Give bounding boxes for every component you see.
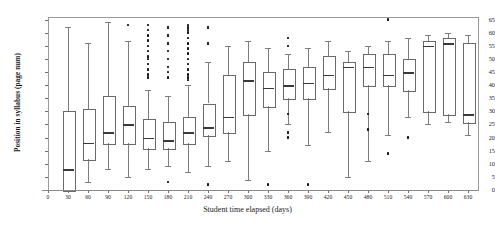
whisker-lower	[188, 143, 189, 172]
y-tick-mark	[45, 85, 48, 86]
outlier-point	[187, 73, 190, 76]
x-tick-label: 570	[417, 194, 439, 200]
whisker-upper	[328, 41, 329, 57]
median-line	[103, 132, 114, 134]
whisker-cap-lower	[85, 182, 91, 183]
outlier-point	[147, 68, 150, 71]
whisker-upper	[388, 41, 389, 54]
box-iqr	[163, 122, 176, 150]
x-tick-label: 30	[57, 194, 79, 200]
outlier-point	[187, 26, 190, 29]
box-iqr	[183, 117, 196, 145]
whisker-cap-upper	[325, 41, 331, 42]
box-iqr	[143, 119, 156, 150]
outlier-point	[207, 183, 210, 186]
x-tick-label: 90	[97, 194, 119, 200]
whisker-cap-lower	[345, 177, 351, 178]
whisker-cap-lower	[165, 166, 171, 167]
whisker-upper	[128, 41, 129, 107]
box-iqr	[243, 62, 256, 116]
x-tick-label: 150	[137, 194, 159, 200]
whisker-cap-upper	[185, 85, 191, 86]
whisker-upper	[268, 48, 269, 72]
whisker-cap-upper	[105, 22, 111, 23]
outlier-point	[267, 183, 270, 186]
x-tick-label: 240	[197, 194, 219, 200]
outlier-point	[187, 31, 190, 34]
whisker-cap-upper	[385, 41, 391, 42]
box-iqr	[403, 59, 416, 92]
median-line	[323, 75, 334, 77]
x-tick-label: 210	[177, 194, 199, 200]
outlier-point	[287, 136, 290, 139]
outlier-point	[307, 183, 310, 186]
outlier-point	[287, 131, 290, 134]
whisker-cap-upper	[265, 48, 271, 49]
whisker-cap-lower	[425, 124, 431, 125]
whisker-cap-upper	[225, 46, 231, 47]
whisker-cap-lower	[205, 166, 211, 167]
x-axis-title: Student time elapsed (days)	[0, 205, 495, 214]
outlier-point	[187, 52, 190, 55]
y-tick-mark	[45, 98, 48, 99]
y-tick-label: 10	[453, 160, 495, 167]
x-tick-label: 60	[77, 194, 99, 200]
whisker-cap-lower	[385, 135, 391, 136]
whisker-cap-upper	[85, 43, 91, 44]
x-tick-label: 480	[357, 194, 379, 200]
median-line	[223, 117, 234, 119]
whisker-lower	[148, 148, 149, 169]
whisker-cap-upper	[345, 51, 351, 52]
median-line	[83, 143, 94, 145]
box-iqr	[103, 96, 116, 145]
whisker-upper	[68, 27, 69, 111]
median-line	[203, 127, 214, 129]
whisker-cap-upper	[165, 96, 171, 97]
whisker-cap-lower	[145, 169, 151, 170]
whisker-upper	[168, 96, 169, 122]
whisker-cap-upper	[405, 38, 411, 39]
whisker-cap-lower	[365, 161, 371, 162]
y-tick-mark	[45, 20, 48, 21]
whisker-upper	[288, 54, 289, 70]
whisker-lower	[88, 159, 89, 183]
median-line	[63, 169, 74, 171]
box-iqr	[83, 109, 96, 161]
box-iqr	[443, 38, 456, 116]
x-tick-label: 360	[277, 194, 299, 200]
boxplot-chart: Position in syllabus (page num) Student …	[0, 0, 495, 231]
median-line	[183, 132, 194, 134]
x-tick-label: 600	[437, 194, 459, 200]
whisker-lower	[328, 88, 329, 133]
median-line	[363, 67, 374, 69]
box-iqr	[383, 54, 396, 87]
whisker-lower	[128, 143, 129, 177]
y-tick-mark	[45, 46, 48, 47]
x-axis-line	[42, 190, 478, 191]
whisker-cap-lower	[285, 124, 291, 125]
median-line	[143, 138, 154, 140]
outlier-point	[407, 136, 410, 139]
x-tick-label: 180	[157, 194, 179, 200]
y-tick-label: 65	[453, 16, 495, 23]
outlier-point	[147, 39, 150, 42]
whisker-lower	[288, 98, 289, 124]
whisker-cap-lower	[465, 135, 471, 136]
whisker-lower	[408, 90, 409, 116]
outlier-point	[167, 26, 170, 29]
y-axis-title: Position in syllabus (page num)	[14, 53, 22, 152]
outlier-point	[207, 26, 210, 29]
median-line	[443, 43, 454, 45]
whisker-cap-lower	[265, 151, 271, 152]
box-iqr	[363, 54, 376, 87]
median-line	[123, 124, 134, 126]
median-line	[303, 83, 314, 85]
outlier-point	[187, 68, 190, 71]
median-line	[163, 140, 174, 142]
x-tick-label: 390	[297, 194, 319, 200]
x-tick-label: 540	[397, 194, 419, 200]
x-tick-label: 300	[237, 194, 259, 200]
median-line	[283, 85, 294, 87]
whisker-cap-upper	[205, 62, 211, 63]
box-iqr	[263, 72, 276, 108]
